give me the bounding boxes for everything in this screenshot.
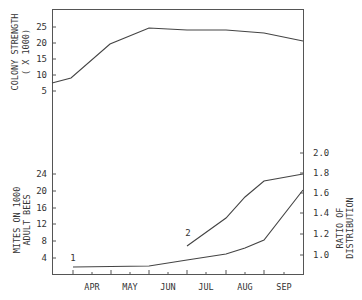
- svg-text:ADULT BEES: ADULT BEES: [22, 194, 32, 245]
- bottom-y-axis-title: MITES ON 1000 ADULT BEES: [12, 187, 32, 254]
- svg-text:1.6: 1.6: [313, 188, 329, 198]
- svg-text:5: 5: [42, 86, 47, 96]
- svg-text:( X 1000): ( X 1000): [21, 29, 31, 75]
- svg-text:JUL: JUL: [198, 282, 213, 292]
- svg-text:10: 10: [36, 70, 47, 80]
- svg-text:RATIO OF: RATIO OF: [335, 208, 345, 249]
- top-y-axis-title: COLONY STRENGTH ( X 1000): [10, 14, 31, 91]
- svg-text:SEP: SEP: [276, 282, 291, 292]
- svg-text:4: 4: [42, 253, 47, 263]
- svg-text:1.2: 1.2: [313, 229, 329, 239]
- svg-text:COLONY STRENGTH: COLONY STRENGTH: [10, 14, 20, 91]
- svg-text:12: 12: [36, 219, 47, 229]
- svg-text:JUN: JUN: [160, 282, 175, 292]
- svg-text:1.4: 1.4: [313, 208, 329, 218]
- right-tick-labels: 2.0 1.8 1.6 1.4 1.2 1.0: [313, 148, 329, 260]
- right-y-axis-title: RATIO OF DISTRIBUTION: [335, 197, 355, 258]
- colony-strength-line: [52, 28, 303, 83]
- svg-text:20: 20: [36, 38, 47, 48]
- svg-text:1.8: 1.8: [313, 168, 329, 178]
- svg-text:15: 15: [36, 54, 47, 64]
- series-1-marker: 1: [70, 253, 75, 263]
- svg-text:DISTRIBUTION: DISTRIBUTION: [345, 197, 355, 258]
- svg-text:AUG: AUG: [237, 282, 252, 292]
- svg-text:MITES ON 1000: MITES ON 1000: [12, 187, 22, 254]
- series-2-line: [187, 174, 303, 246]
- svg-text:2.0: 2.0: [313, 148, 329, 158]
- svg-text:APR: APR: [84, 282, 100, 292]
- svg-text:MAY: MAY: [122, 282, 137, 292]
- bottom-tick-labels: 24 20 16 12 8 4: [36, 169, 47, 263]
- svg-text:8: 8: [42, 236, 47, 246]
- svg-text:20: 20: [36, 186, 47, 196]
- svg-text:1.0: 1.0: [313, 250, 329, 260]
- svg-text:24: 24: [36, 169, 47, 179]
- series-2-marker: 2: [185, 228, 190, 238]
- month-labels: APR MAY JUN JUL AUG SEP: [84, 282, 291, 292]
- top-tick-labels: 25 20 15 10 5: [36, 22, 47, 96]
- svg-text:16: 16: [36, 203, 47, 213]
- svg-text:25: 25: [36, 22, 47, 32]
- chart-figure: 25 20 15 10 5 24 20 16 12 8 4 2.0 1.8 1.…: [0, 0, 362, 300]
